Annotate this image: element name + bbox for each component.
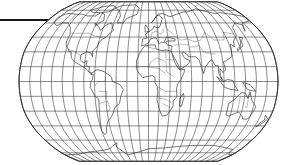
robinson-world-map-svg <box>0 0 294 165</box>
world-map <box>0 0 294 165</box>
